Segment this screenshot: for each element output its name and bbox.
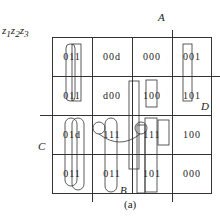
figure-caption: (a) <box>124 198 136 210</box>
grouping-loops <box>0 0 220 217</box>
